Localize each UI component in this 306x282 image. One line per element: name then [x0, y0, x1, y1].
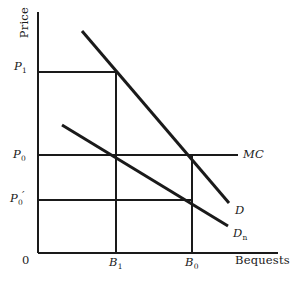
- plot-canvas: [0, 0, 306, 282]
- y-tick-sub-p0: 0: [21, 154, 26, 163]
- x-tick-label-b0: B0: [185, 257, 199, 269]
- curve-label-d-base: D: [235, 203, 244, 217]
- y-tick-base-p1: P: [14, 59, 22, 73]
- y-axis-title: Price: [19, 7, 31, 38]
- economics-diagram: Price Bequests 0 P1 P0 P0′ B1 B0 MC D Dn: [0, 0, 306, 282]
- demand-curve-dn: [62, 125, 228, 226]
- y-tick-label-p1: P1: [14, 61, 27, 73]
- origin-label: 0: [22, 255, 30, 267]
- x-tick-sub-b1: 1: [118, 262, 123, 271]
- y-tick-sub-p1: 1: [22, 66, 27, 75]
- y-tick-base-p0-prime: P: [10, 191, 18, 205]
- demand-curve-d: [82, 31, 229, 203]
- curve-label-d: D: [235, 205, 244, 217]
- curve-label-dn: Dn: [233, 228, 247, 240]
- y-tick-prime-mark: ′: [22, 189, 25, 202]
- x-tick-base-b1: B: [109, 255, 118, 269]
- curve-label-dn-sub: n: [242, 233, 247, 242]
- x-tick-base-b0: B: [185, 255, 194, 269]
- curve-label-mc: MC: [243, 149, 264, 161]
- x-axis-title: Bequests: [235, 255, 290, 267]
- x-tick-label-b1: B1: [109, 257, 123, 269]
- y-tick-label-p0: P0: [13, 149, 26, 161]
- y-tick-base-p0: P: [13, 147, 21, 161]
- y-tick-label-p0-prime: P0′: [10, 193, 26, 205]
- curve-label-dn-base: D: [233, 226, 242, 240]
- guide-lines-group: [38, 72, 192, 253]
- x-tick-sub-b0: 0: [194, 262, 199, 271]
